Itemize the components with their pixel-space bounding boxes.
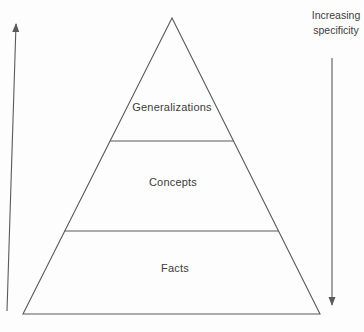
diagram-graphics <box>0 0 364 332</box>
increasing-specificity-caption: Increasing specificity <box>312 8 360 38</box>
level-label-concepts: Concepts <box>149 176 197 188</box>
level-label-facts: Facts <box>161 262 189 274</box>
caption-line-1: Increasing <box>312 8 360 23</box>
up-arrow-icon <box>7 24 16 311</box>
caption-line-2: specificity <box>312 23 360 38</box>
level-label-generalizations: Generalizations <box>132 101 211 113</box>
pyramid-diagram: Generalizations Concepts Facts Increasin… <box>0 0 364 332</box>
